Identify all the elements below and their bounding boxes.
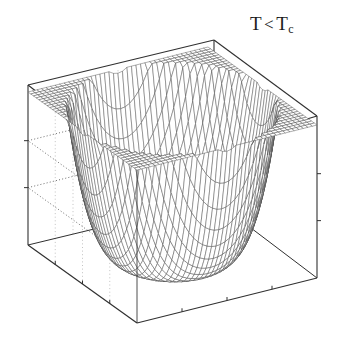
temperature-symbol: T [250,13,262,34]
surface-plot-canvas [0,0,337,346]
temperature-condition-label: T<Tc [250,14,294,35]
less-than-symbol: < [262,15,276,34]
surface-plot-figure: T<Tc [0,0,337,346]
critical-temperature-symbol: T [276,13,288,34]
critical-subscript: c [288,22,293,36]
